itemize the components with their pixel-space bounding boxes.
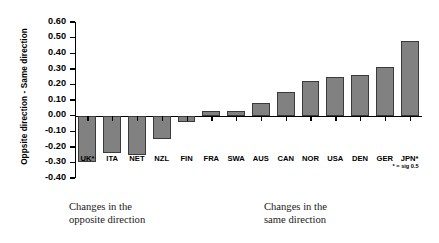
x-tick-mark xyxy=(385,116,386,121)
x-tick-mark xyxy=(87,116,88,121)
x-tick-mark xyxy=(211,116,212,121)
y-tick-label: -0.20 xyxy=(45,141,66,151)
y-tick-label: 0.00 xyxy=(48,109,66,119)
bars-layer: UK*ITANETNZLFINFRASWAAUSCANNORUSADENGERJ… xyxy=(75,22,422,178)
caption-same-direction: Changes in the same direction xyxy=(264,200,327,226)
bar xyxy=(277,92,295,115)
bar xyxy=(103,116,121,153)
bar xyxy=(376,67,394,115)
x-tick-mark xyxy=(410,116,411,121)
bar xyxy=(351,75,369,116)
y-tick-label: 0.60 xyxy=(48,16,66,26)
y-tick-label: 0.40 xyxy=(48,47,66,57)
y-axis-title: Oppsite direction - Same direction xyxy=(20,12,29,182)
bar xyxy=(128,116,146,155)
x-tick-mark xyxy=(261,116,262,121)
plot-area: 0.600.500.400.300.200.100.00-0.10-0.20-0… xyxy=(75,22,422,178)
x-tick-mark xyxy=(286,116,287,121)
x-tick-mark xyxy=(335,116,336,121)
x-tick-mark xyxy=(236,116,237,121)
bar-group: JPN* xyxy=(397,22,422,178)
bar-chart-figure: Oppsite direction - Same direction 0.600… xyxy=(0,0,439,243)
x-tick-mark xyxy=(162,116,163,121)
y-tick-label: 0.10 xyxy=(48,94,66,104)
x-tick-mark xyxy=(187,116,188,121)
bar xyxy=(302,81,320,115)
y-tick-label: -0.10 xyxy=(45,125,66,135)
bar xyxy=(401,41,419,116)
x-axis-category-label: JPN* xyxy=(387,154,433,163)
x-tick-mark xyxy=(310,116,311,121)
x-tick-mark xyxy=(112,116,113,121)
x-tick-mark xyxy=(137,116,138,121)
y-tick-label: 0.20 xyxy=(48,78,66,88)
x-tick-mark xyxy=(360,116,361,121)
significance-footnote: * = sig 0.5 xyxy=(393,163,419,169)
y-tick-label: -0.40 xyxy=(45,172,66,182)
y-tick-label: 0.50 xyxy=(48,31,66,41)
y-tick-label: 0.30 xyxy=(48,63,66,73)
bar xyxy=(252,103,270,115)
bar xyxy=(326,77,344,116)
y-tick-label: -0.30 xyxy=(45,156,66,166)
caption-opposite-direction: Changes in the opposite direction xyxy=(69,200,145,226)
